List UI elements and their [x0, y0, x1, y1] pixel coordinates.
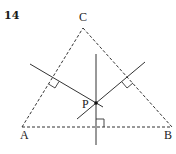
right-angle-marker-ab: [96, 119, 104, 127]
geometry-figure: 14 C A B P: [0, 0, 176, 154]
label-p: P: [82, 97, 89, 111]
problem-number: 14: [4, 9, 20, 22]
label-a: A: [20, 128, 29, 142]
label-b: B: [164, 128, 172, 142]
right-angle-markers: [49, 82, 134, 128]
label-c: C: [79, 10, 87, 24]
right-angle-marker-bc: [122, 82, 133, 88]
triangle-abc: [22, 28, 172, 127]
right-angle-marker-ac: [49, 82, 60, 89]
point-p: [94, 101, 98, 105]
bisector-ac: [30, 64, 103, 107]
